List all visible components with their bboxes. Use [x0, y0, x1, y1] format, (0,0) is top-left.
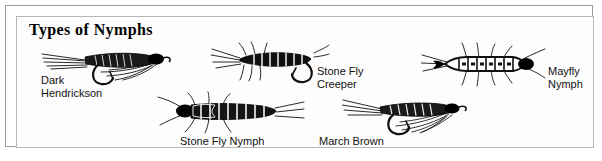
label-stone-fly-nymph: Stone Fly Nymph	[180, 135, 264, 148]
illustration-mayfly-nymph	[421, 37, 547, 91]
page-title: Types of Nymphs	[29, 21, 153, 39]
nymph-types-figure: Types of Nymphs	[0, 0, 602, 161]
label-dark-hendrickson: Dark Hendrickson	[41, 74, 102, 99]
illustration-stone-fly-nymph	[155, 91, 305, 135]
illustration-stone-fly-creeper	[210, 35, 330, 85]
outer-frame: Types of Nymphs	[5, 5, 593, 147]
label-march-brown: March Brown	[319, 135, 384, 148]
inner-frame: Types of Nymphs	[16, 16, 594, 148]
label-mayfly-nymph: Mayfly Nymph	[548, 65, 583, 90]
label-stone-fly-creeper: Stone Fly Creeper	[317, 65, 363, 90]
illustration-march-brown	[342, 89, 472, 137]
